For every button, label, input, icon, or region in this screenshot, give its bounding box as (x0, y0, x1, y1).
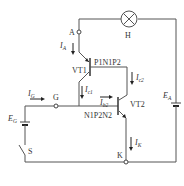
ik-arrow-icon (129, 147, 133, 151)
thyristor-circuit-diagram: H EA A IA P1N1P2 VT1 Ic1 Ic2 G IG (0, 0, 184, 186)
ic2-label: Ic2 (135, 73, 144, 83)
eg-label: EG (7, 114, 17, 124)
ic1-label: Ic1 (84, 85, 93, 95)
terminal-k (124, 160, 128, 164)
vt1-label: VT1 (72, 66, 87, 75)
terminal-k-label: K (117, 151, 123, 160)
terminal-g-label: G (53, 93, 59, 102)
battery-eg-icon (20, 106, 30, 145)
vt2-transistor-icon (118, 95, 127, 118)
ig-arrow-icon (41, 97, 45, 101)
ib2-arrow-icon (109, 95, 113, 99)
lamp-icon (121, 11, 137, 27)
ia-arrow-icon (71, 51, 75, 55)
battery-ea-icon (171, 97, 181, 162)
ig-label: IG (27, 89, 35, 99)
vt1-structure-label: P1N1P2 (94, 58, 121, 67)
vt2-label: VT2 (130, 100, 145, 109)
vt2-structure-label: N1P2N2 (84, 111, 112, 120)
ib2-label: Ib2 (99, 98, 108, 108)
ic1-arrow-icon (80, 95, 84, 99)
terminal-a-label: A (69, 28, 75, 37)
wire-top-right (138, 19, 176, 97)
switch-label: S (28, 147, 32, 156)
wire-top-left (79, 19, 121, 30)
ik-label: IK (134, 138, 142, 148)
switch-icon (19, 145, 25, 162)
lamp-label: H (125, 31, 131, 40)
ea-label: EA (162, 91, 172, 101)
terminal-g (54, 104, 58, 108)
ia-label: IA (59, 41, 67, 51)
ic2-arrow-icon (130, 81, 134, 85)
terminal-a (77, 30, 81, 34)
